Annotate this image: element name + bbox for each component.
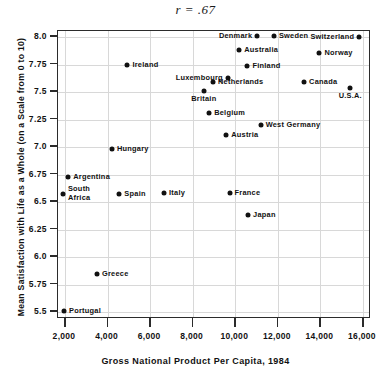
data-point-label: Hungary — [117, 145, 149, 154]
data-point-label: Spain — [124, 190, 145, 199]
data-point — [125, 62, 130, 67]
y-axis-tick — [50, 173, 57, 175]
y-axis-tick — [50, 310, 57, 312]
y-axis-tick-label: 6.25 — [3, 224, 47, 234]
data-point — [60, 192, 65, 197]
data-point-label: Canada — [309, 78, 337, 87]
y-axis-tick-label: 7.0 — [3, 141, 47, 151]
y-gridline — [58, 257, 369, 258]
y-axis-tick-label: 5.75 — [3, 279, 47, 289]
data-point-label: Luxembourg — [176, 74, 223, 83]
data-point — [225, 75, 230, 80]
data-point — [348, 85, 353, 90]
y-axis-tick — [50, 228, 57, 230]
y-gridline — [58, 202, 369, 203]
y-gridline — [58, 147, 369, 148]
data-point-label: Argentina — [73, 173, 110, 182]
data-point-label: Ireland — [132, 60, 158, 69]
x-axis-tick — [234, 318, 236, 327]
y-axis-tick-label: 7.5 — [3, 86, 47, 96]
x-axis-title: Gross National Product Per Capita, 1984 — [0, 356, 391, 366]
data-point-label: Finland — [252, 61, 280, 70]
y-axis-tick — [50, 35, 57, 37]
data-point-label: France — [235, 189, 261, 198]
data-point — [207, 111, 212, 116]
data-point — [357, 35, 362, 40]
data-point — [94, 271, 99, 276]
data-point — [302, 80, 307, 85]
data-point-label: Australia — [244, 46, 278, 55]
y-axis-tick-label: 7.75 — [3, 59, 47, 69]
data-point — [255, 34, 260, 39]
data-point — [224, 133, 229, 138]
data-point — [317, 50, 322, 55]
y-axis-tick — [50, 145, 57, 147]
y-axis-tick-label: 6.75 — [3, 169, 47, 179]
y-axis-tick — [50, 63, 57, 65]
x-axis-tick — [277, 318, 279, 327]
data-point — [109, 147, 114, 152]
data-point — [227, 191, 232, 196]
data-point — [258, 123, 263, 128]
x-axis-tick-label: 16,000 — [335, 331, 389, 341]
data-point-label: Britain — [191, 95, 216, 104]
y-axis-tick-label: 6.0 — [3, 251, 47, 261]
data-point-label: Sweden — [279, 32, 308, 41]
y-axis-tick-label: 5.5 — [3, 306, 47, 316]
y-axis-tick — [50, 200, 57, 202]
x-axis-tick — [149, 318, 151, 327]
chart-title: r = .67 — [0, 2, 391, 18]
x-axis-tick — [107, 318, 109, 327]
y-axis-tick-label: 7.25 — [3, 114, 47, 124]
y-axis-tick — [50, 255, 57, 257]
y-gridline — [58, 312, 369, 313]
data-point-label: Denmark — [219, 32, 252, 41]
data-point — [246, 213, 251, 218]
y-axis-tick — [50, 90, 57, 92]
data-point — [245, 63, 250, 68]
data-point-label: Japan — [253, 211, 276, 220]
y-gridline — [58, 230, 369, 231]
data-point-label: SouthAfrica — [68, 186, 102, 203]
data-point-label: Greece — [102, 269, 129, 278]
y-axis-tick — [50, 118, 57, 120]
data-point-label: Switzerland — [310, 33, 354, 42]
y-axis-tick-label: 8.0 — [3, 31, 47, 41]
data-point — [237, 48, 242, 53]
data-point-label: Belgium — [214, 109, 245, 118]
y-gridline — [58, 285, 369, 286]
y-gridline — [58, 92, 369, 93]
data-point-label: Austria — [231, 131, 258, 140]
y-axis-tick-label: 6.5 — [3, 196, 47, 206]
data-point-label: Italy — [169, 189, 185, 198]
data-point-label: U.S.A. — [339, 92, 362, 101]
data-point — [162, 191, 167, 196]
data-point-label: Norway — [324, 48, 352, 57]
data-point-label: West Germany — [266, 121, 321, 130]
x-axis-tick — [64, 318, 66, 327]
y-axis-tick — [50, 283, 57, 285]
y-gridline — [58, 65, 369, 66]
data-point — [117, 192, 122, 197]
x-axis-tick — [319, 318, 321, 327]
x-axis-tick — [192, 318, 194, 327]
data-point — [271, 34, 276, 39]
data-point — [201, 89, 206, 94]
y-gridline — [58, 120, 369, 121]
data-point-label: Portugal — [69, 307, 101, 316]
data-point — [62, 309, 67, 314]
data-point — [66, 174, 71, 179]
x-axis-tick — [362, 318, 364, 327]
